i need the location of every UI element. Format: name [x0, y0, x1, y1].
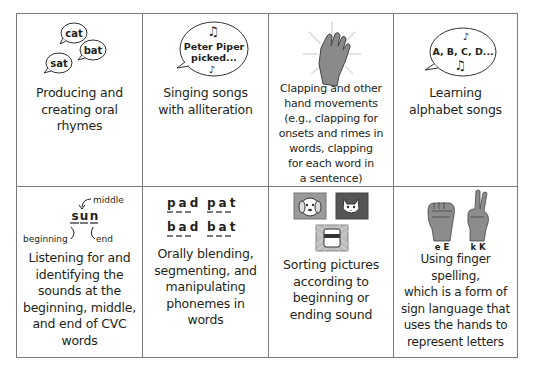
activity-grid: cat bat sat Producing and creating oral … [16, 13, 518, 358]
word-grid-icon: pad pat bad bat [163, 191, 253, 243]
cell-caption: Sorting pictures according to beginning … [271, 257, 391, 323]
svg-text:u: u [80, 209, 89, 223]
cell-caption: Learning alphabet songs [396, 85, 515, 118]
svg-text:k K: k K [470, 242, 486, 251]
speech-bubbles-icon: cat bat sat [35, 18, 125, 78]
cell-caption: Orally blending, segmenting, and manipul… [145, 246, 266, 329]
svg-text:Peter Piper: Peter Piper [184, 41, 245, 52]
cell-phonemes: pad pat bad bat Orally blending, segment… [143, 187, 269, 357]
cvc-diagram-icon: middle s u n beginning end [23, 189, 138, 247]
music-note-icon: ♫ [207, 24, 219, 39]
svg-text:pat: pat [207, 196, 238, 210]
hand-k-icon [468, 190, 489, 241]
svg-text:sat: sat [50, 58, 68, 69]
music-note-icon: ♪ [209, 64, 215, 75]
music-speech-bubble-icon: ♫ Peter Piper picked... ♪ [171, 18, 251, 82]
cell-caption: Listening for and identifying the sounds… [19, 250, 140, 349]
svg-text:bat: bat [84, 45, 103, 56]
cell-caption: Clapping and other hand movements (e.g.,… [271, 81, 391, 186]
cell-sorting-pictures: Sorting pictures according to beginning … [269, 187, 394, 357]
cell-alphabet-songs: ♪ A, B, C, D... ♫ Learning alphabet song… [394, 14, 517, 187]
picture-cards-icon [291, 191, 376, 253]
svg-text:end: end [96, 234, 113, 244]
svg-text:n: n [90, 209, 99, 223]
jar-picture-icon [316, 225, 348, 251]
svg-text:pad: pad [167, 196, 201, 210]
dog-picture-icon [294, 193, 326, 219]
sign-language-hands-icon: e E k K [422, 189, 502, 251]
svg-text:bat: bat [207, 220, 238, 234]
cell-clapping: Clapping and other hand movements (e.g.,… [269, 14, 394, 187]
cell-caption: Singing songs with alliteration [145, 85, 266, 118]
cell-oral-rhymes: cat bat sat Producing and creating oral … [17, 14, 143, 187]
svg-text:beginning: beginning [23, 234, 68, 244]
svg-text:picked...: picked... [191, 52, 237, 63]
clapping-hand-icon [299, 20, 365, 90]
cell-alliteration-songs: ♫ Peter Piper picked... ♪ Singing songs … [143, 14, 269, 187]
music-note-icon: ♫ [454, 58, 466, 73]
svg-text:cat: cat [65, 28, 83, 39]
svg-text:A, B, C, D...: A, B, C, D... [432, 46, 493, 57]
cell-caption: Using finger spelling, which is a form o… [396, 251, 515, 350]
cat-picture-icon [336, 193, 368, 219]
cell-caption: Producing and creating oral rhymes [19, 85, 140, 135]
cell-finger-spelling: e E k K Using finger spelling, which is … [394, 187, 517, 357]
svg-text:bad: bad [167, 220, 201, 234]
svg-text:e E: e E [435, 242, 450, 251]
svg-text:middle: middle [93, 195, 124, 205]
music-note-icon: ♪ [463, 31, 469, 42]
svg-text:s: s [71, 209, 78, 223]
cell-cvc-sounds: middle s u n beginning end Listening for… [17, 187, 143, 357]
hand-e-icon [428, 202, 455, 241]
music-speech-bubble-icon: ♪ A, B, C, D... ♫ [420, 24, 500, 82]
